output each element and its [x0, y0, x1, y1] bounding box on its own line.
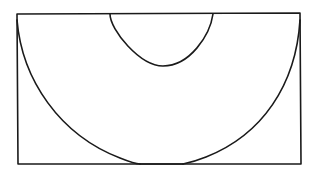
figure	[17, 13, 301, 164]
diagram-canvas	[0, 0, 317, 174]
outer-rectangle	[17, 13, 301, 164]
small-semicircle-arc	[110, 14, 213, 66]
large-semicircle-arc	[17, 20, 300, 164]
